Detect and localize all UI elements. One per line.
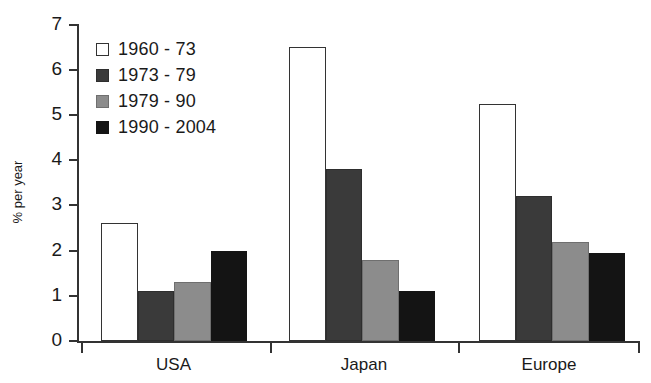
legend-item-3: 1990 - 2004 <box>96 116 216 138</box>
bar-europe-1 <box>516 196 553 341</box>
legend-label-2: 1979 - 90 <box>118 92 196 111</box>
legend-swatch-icon-3 <box>96 121 109 134</box>
y-tick-label: 3 <box>36 194 62 213</box>
legend-item-0: 1960 - 73 <box>96 38 216 60</box>
legend-swatch-icon-0 <box>96 43 109 56</box>
bar-usa-2 <box>174 282 211 341</box>
x-axis-line <box>77 341 640 343</box>
bar-usa-1 <box>138 291 175 341</box>
y-tick-label: 2 <box>36 240 62 259</box>
y-tick-mark <box>69 24 78 26</box>
y-tick-label: 6 <box>36 59 62 78</box>
legend-swatch-icon-2 <box>96 95 109 108</box>
y-axis-title: % per year <box>11 132 25 252</box>
y-tick-mark <box>69 250 78 252</box>
y-tick-mark <box>69 159 78 161</box>
bar-europe-0 <box>479 104 516 341</box>
y-tick-label: 4 <box>36 149 62 168</box>
y-tick-mark <box>69 340 78 342</box>
legend-swatch-icon-1 <box>96 69 109 82</box>
bar-usa-3 <box>211 251 248 341</box>
x-tick-mark <box>270 343 272 353</box>
y-tick-mark <box>69 295 78 297</box>
x-tick-mark <box>458 343 460 353</box>
legend-item-2: 1979 - 90 <box>96 90 216 112</box>
y-tick-label: 5 <box>36 104 62 123</box>
bar-europe-3 <box>589 253 626 341</box>
y-tick-label: 7 <box>36 14 62 33</box>
y-tick-label: 1 <box>36 285 62 304</box>
y-tick-mark <box>69 114 78 116</box>
bar-japan-1 <box>326 169 363 341</box>
x-category-label-japan: Japan <box>270 356 458 374</box>
legend-label-1: 1973 - 79 <box>118 66 196 85</box>
x-tick-mark <box>81 343 83 353</box>
legend-item-1: 1973 - 79 <box>96 64 216 86</box>
legend-label-3: 1990 - 2004 <box>118 118 216 137</box>
x-category-label-usa: USA <box>77 356 270 374</box>
bar-usa-0 <box>101 223 138 341</box>
bar-chart: 01234567 % per year USAJapanEurope 1960 … <box>0 0 651 383</box>
legend: 1960 - 731973 - 791979 - 901990 - 2004 <box>96 38 216 142</box>
y-tick-mark <box>69 204 78 206</box>
bar-japan-2 <box>362 260 399 341</box>
bar-europe-2 <box>552 242 589 341</box>
legend-label-0: 1960 - 73 <box>118 40 196 59</box>
y-tick-mark <box>69 69 78 71</box>
bar-japan-0 <box>289 47 326 341</box>
y-tick-label: 0 <box>36 330 62 349</box>
bar-japan-3 <box>399 291 436 341</box>
x-tick-mark <box>638 343 640 353</box>
x-category-label-europe: Europe <box>458 356 640 374</box>
